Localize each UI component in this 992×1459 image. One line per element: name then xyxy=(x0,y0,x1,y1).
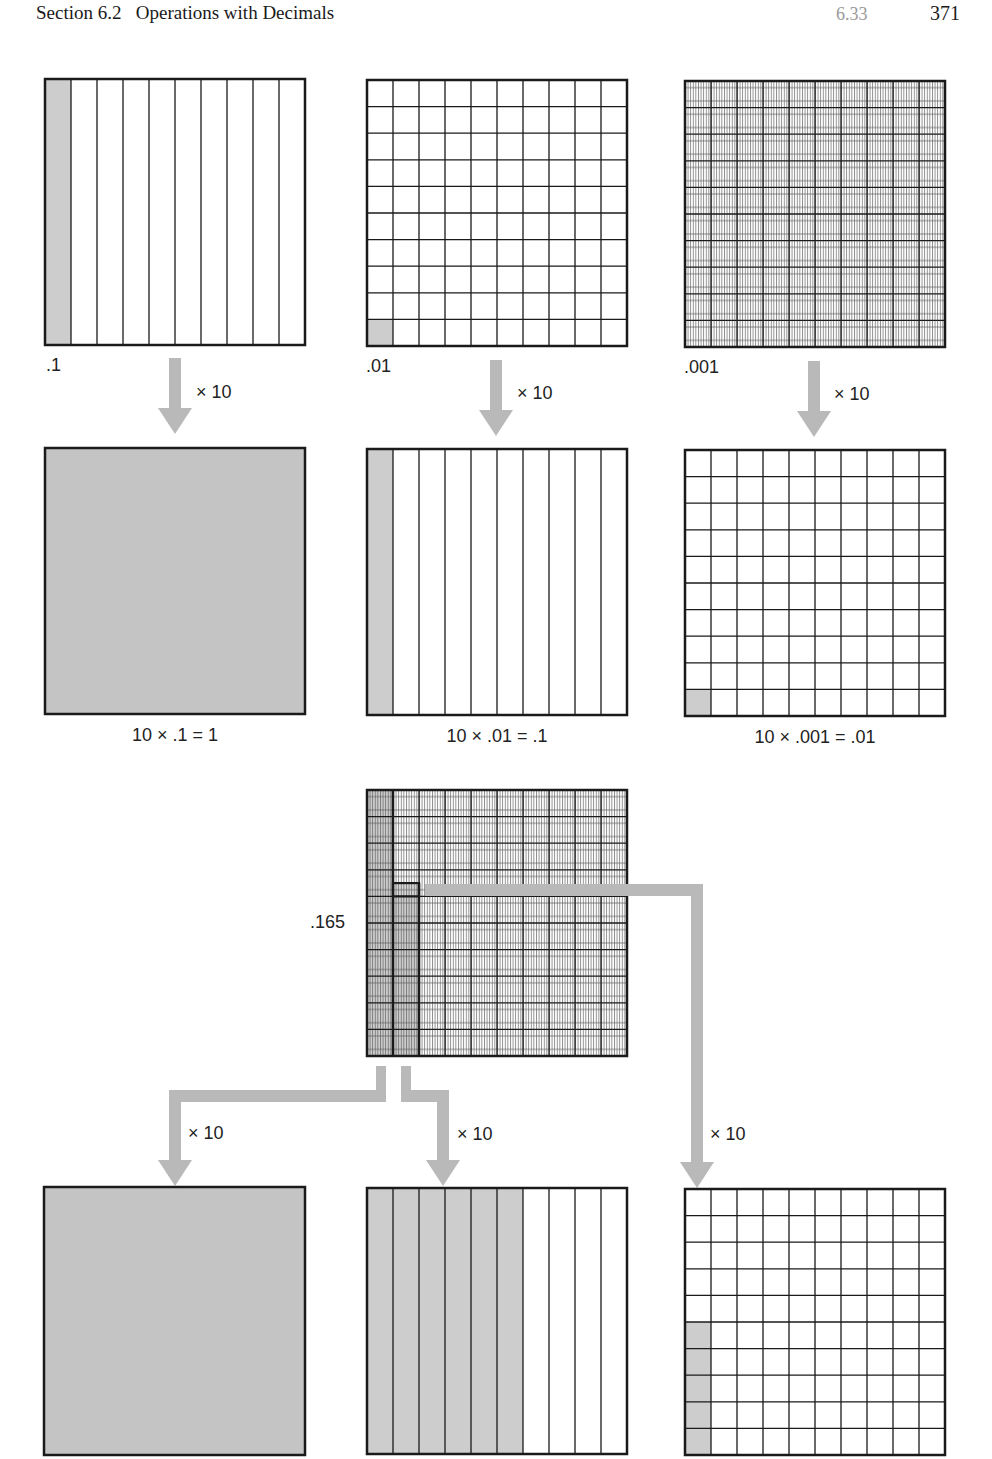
grid-result-five-hundredths xyxy=(685,1189,945,1455)
connector-arrow xyxy=(401,1066,460,1186)
grid-whole-shaded xyxy=(45,448,305,714)
arrow-down-icon xyxy=(479,360,513,436)
multiply-ten-label: × 10 xyxy=(196,382,232,403)
multiply-ten-label: × 10 xyxy=(834,384,870,405)
label-point-zero-one: .01 xyxy=(366,356,391,377)
arrow-down-icon xyxy=(158,358,192,434)
label-point-zero-zero-one: .001 xyxy=(684,357,719,378)
arrow-down-icon xyxy=(797,361,831,437)
grid-point-one xyxy=(45,79,305,345)
grid-hundredths-one-shaded xyxy=(685,450,945,716)
caption-whole: 10 × .1 = 1 xyxy=(45,725,305,746)
caption-hundredth: 10 × .001 = .01 xyxy=(685,727,945,748)
label-point-one-six-five: .165 xyxy=(310,912,345,933)
grid-point-one-six-five xyxy=(367,790,627,1056)
grid-result-six-tenths xyxy=(367,1188,627,1454)
grid-point-zero-one xyxy=(367,80,627,346)
multiply-ten-label: × 10 xyxy=(710,1124,746,1145)
caption-tenth: 10 × .01 = .1 xyxy=(367,726,627,747)
label-point-one: .1 xyxy=(46,355,61,376)
multiply-ten-label: × 10 xyxy=(457,1124,493,1145)
grid-tenths-one-shaded xyxy=(367,449,627,715)
grid-point-zero-zero-one xyxy=(685,81,945,347)
grid-result-whole xyxy=(44,1187,305,1455)
multiply-ten-label: × 10 xyxy=(188,1123,224,1144)
multiply-ten-label: × 10 xyxy=(517,383,553,404)
